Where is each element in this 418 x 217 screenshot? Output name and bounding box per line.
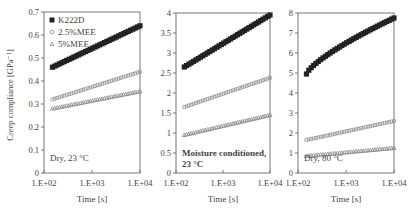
y-tick-label: 0.5 xyxy=(28,53,39,63)
x-axis-label: Time [s] xyxy=(331,194,361,204)
chart-panel-3: 0123456781.E+021.E+031.E+04Time [s]Dry, … xyxy=(286,8,408,204)
series-5-mee xyxy=(182,113,272,137)
x-tick-label: 1.E+04 xyxy=(128,178,154,188)
x-tick-label: 1.E+03 xyxy=(334,178,359,188)
series-5-mee xyxy=(50,89,142,110)
x-tick-label: 1.E+02 xyxy=(32,178,57,188)
legend: K222D2.5%MEE5%MEE xyxy=(50,15,97,49)
y-tick-label: 0.1 xyxy=(28,145,39,155)
y-tick-label: 4 xyxy=(167,8,172,18)
legend-triangle-icon xyxy=(50,42,54,46)
panel-label: 23 °C xyxy=(182,159,203,169)
y-tick-label: 0.3 xyxy=(28,99,39,109)
chart-canvas: Creep compliance [GPa⁻¹]00.10.20.30.40.5… xyxy=(0,0,418,217)
x-tick-label: 1.E+03 xyxy=(80,178,105,188)
x-axis-label: Time [s] xyxy=(77,194,107,204)
x-tick-label: 1.E+02 xyxy=(164,178,189,188)
series-2-5-mee xyxy=(51,70,142,101)
y-tick-label: 3.5 xyxy=(160,28,171,38)
chart-panel-2: 00.511.522.533.541.E+021.E+031.E+04Time … xyxy=(160,8,283,204)
y-tick-label: 5 xyxy=(289,68,293,78)
x-tick-label: 1.E+04 xyxy=(382,178,408,188)
marker-square xyxy=(267,12,272,17)
y-tick-label: 0 xyxy=(167,168,171,178)
y-tick-label: 4 xyxy=(289,88,294,98)
y-tick-label: 1 xyxy=(289,148,293,158)
legend-entry: 2.5%MEE xyxy=(58,27,96,37)
y-tick-label: 7 xyxy=(289,28,293,38)
y-tick-label: 3 xyxy=(289,108,293,118)
x-tick-label: 1.E+04 xyxy=(258,178,284,188)
y-tick-label: 0.6 xyxy=(28,30,39,40)
legend-entry: 5%MEE xyxy=(58,39,89,49)
y-tick-label: 0.7 xyxy=(28,7,39,17)
panel-label: Dry, 80 °C xyxy=(304,153,343,163)
y-tick-label: 2 xyxy=(167,88,171,98)
y-tick-label: 0 xyxy=(289,168,293,178)
y-tick-label: 6 xyxy=(289,48,293,58)
legend-circle-icon xyxy=(50,30,54,34)
legend-square-icon xyxy=(50,18,55,23)
legend-entry: K222D xyxy=(58,15,85,25)
panel-label: Moisture conditioned, xyxy=(182,148,266,158)
series-2-5-mee xyxy=(183,76,272,109)
chart-panel-1: 00.10.20.30.40.50.60.71.E+021.E+031.E+04… xyxy=(28,7,153,204)
y-tick-label: 1.5 xyxy=(160,108,171,118)
y-tick-label: 0.5 xyxy=(160,148,171,158)
y-tick-label: 0.4 xyxy=(28,76,39,86)
y-axis-label: Creep compliance [GPa⁻¹] xyxy=(5,49,15,141)
y-tick-label: 3 xyxy=(167,48,171,58)
x-tick-label: 1.E+03 xyxy=(211,178,236,188)
plot-frame xyxy=(298,13,394,173)
panel-label: Dry, 23 °C xyxy=(50,153,89,163)
x-axis-label: Time [s] xyxy=(208,194,238,204)
y-tick-label: 0.2 xyxy=(28,122,39,132)
series-k222d xyxy=(304,15,397,76)
series-2-5-mee xyxy=(305,119,396,141)
series-k222d xyxy=(182,12,273,69)
x-tick-label: 1.E+02 xyxy=(286,178,311,188)
y-tick-label: 2 xyxy=(289,128,293,138)
marker-square xyxy=(391,15,396,20)
marker-square xyxy=(137,23,142,28)
creep-compliance-figure: Creep compliance [GPa⁻¹]00.10.20.30.40.5… xyxy=(0,0,418,217)
y-tick-label: 0 xyxy=(35,168,39,178)
y-tick-label: 8 xyxy=(289,8,293,18)
y-tick-label: 1 xyxy=(167,128,171,138)
y-tick-label: 2.5 xyxy=(160,68,171,78)
